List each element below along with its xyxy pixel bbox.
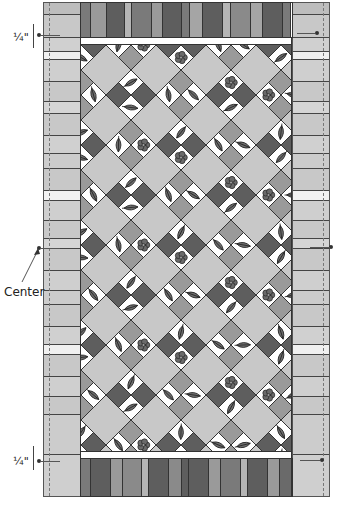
- stripe-strip: [223, 3, 231, 37]
- marker-line: [40, 461, 60, 462]
- stripe-strip: [163, 3, 182, 37]
- marker-dot: [315, 31, 319, 35]
- stripe-strip: [182, 459, 190, 496]
- stripe-strip: [280, 459, 292, 496]
- stripe-strip: [91, 3, 107, 37]
- center-arrow-icon: [20, 246, 42, 284]
- stripe-strip: [132, 3, 152, 37]
- stripe-strip: [91, 459, 111, 496]
- seam-line: [323, 3, 324, 496]
- stripe-strip: [81, 3, 91, 37]
- bottom-measure-arrow-icon: [33, 446, 34, 470]
- top-stripe-border: [80, 2, 293, 38]
- stripe-strip: [107, 3, 125, 37]
- stripe-strip: [169, 459, 182, 496]
- stripe-strip: [251, 3, 263, 37]
- on-point-block-grid: [81, 45, 292, 452]
- stripe-strip: [231, 3, 251, 37]
- stripe-strip: [221, 459, 241, 496]
- stripe-strip: [189, 459, 209, 496]
- stripe-strip: [142, 459, 149, 496]
- stripe-strip: [182, 3, 190, 37]
- stripe-strip: [268, 459, 280, 496]
- marker-dot: [320, 458, 324, 462]
- stripe-strip: [248, 459, 268, 496]
- stripe-strip: [125, 3, 132, 37]
- center-field: [80, 44, 292, 452]
- stripe-strip: [241, 459, 248, 496]
- marker-line: [40, 35, 60, 36]
- seam-line: [49, 3, 50, 496]
- stripe-strip: [283, 3, 291, 37]
- top-measure-arrow-icon: [33, 24, 34, 48]
- marker-line: [310, 247, 330, 248]
- marker-line: [300, 460, 320, 461]
- left-side-border: [43, 2, 81, 497]
- stripe-strip: [152, 3, 163, 37]
- bottom-stripe-border: [80, 458, 293, 497]
- stripe-strip: [190, 3, 203, 37]
- stripe-strip: [81, 459, 91, 496]
- stripe-strip: [263, 3, 283, 37]
- bottom-quarter-inch-label: ¼": [13, 455, 29, 468]
- marker-line: [297, 33, 315, 34]
- stripe-strip: [123, 459, 142, 496]
- top-quarter-inch-label: ¼": [13, 31, 29, 44]
- marker-line: [40, 248, 60, 249]
- stripe-strip: [209, 459, 221, 496]
- stripe-strip: [111, 459, 123, 496]
- stripe-strip: [149, 459, 169, 496]
- center-label: Center: [4, 285, 44, 299]
- stripe-strip: [203, 3, 223, 37]
- right-side-border: [292, 2, 330, 497]
